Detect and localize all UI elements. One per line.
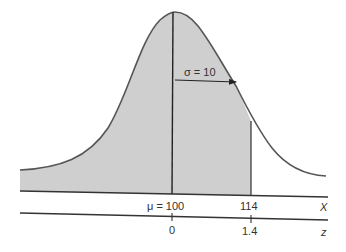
shaded-area <box>20 12 251 196</box>
z-label-1-4: 1.4 <box>242 225 257 237</box>
sigma-label: σ = 10 <box>184 66 216 78</box>
chart-svg: σ = 10 μ = 100 114 X 0 1.4 z <box>0 0 346 252</box>
mean-line <box>172 12 173 194</box>
z-axis-line <box>20 213 328 220</box>
x-axis-name: X <box>319 201 328 213</box>
normal-distribution-figure: σ = 10 μ = 100 114 X 0 1.4 z <box>0 0 346 252</box>
z-label-0: 0 <box>169 224 175 236</box>
z-axis-name: z <box>320 226 327 238</box>
mu-label: μ = 100 <box>147 200 184 212</box>
x-tick-114: 114 <box>240 200 258 212</box>
